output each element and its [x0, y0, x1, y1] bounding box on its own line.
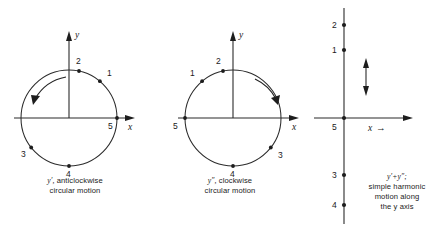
point-marker-5 — [183, 116, 187, 120]
point-marker-2 — [77, 69, 81, 73]
point-marker-5 — [115, 116, 119, 120]
caption-line-2: circular motion — [205, 186, 256, 195]
panel-shm: 2 1 5 3 4 x → y′+y″; simple harmonic mot… — [310, 0, 445, 234]
point-label-1: 1 — [190, 68, 195, 78]
caption-line-1: simple harmonic — [369, 182, 426, 191]
y-axis-arrowhead — [230, 31, 236, 41]
anticlockwise-diagram: 1 2 3 4 5 y x — [0, 0, 150, 175]
point-label-1: 1 — [332, 45, 337, 55]
physics-figure: 1 2 3 4 5 y x y′, anticlockwise circular… — [0, 0, 445, 234]
caption-anticlockwise: y′, anticlockwise circular motion — [0, 176, 150, 196]
y-axis-label: y — [74, 30, 80, 40]
point-marker-4 — [231, 164, 235, 168]
point-marker-3 — [269, 146, 273, 150]
point-marker-2 — [342, 23, 346, 27]
caption-line-2: motion along — [375, 192, 420, 201]
point-label-4: 4 — [332, 200, 337, 210]
point-label-1: 1 — [107, 68, 112, 78]
point-label-2: 2 — [216, 56, 221, 66]
panel-anticlockwise: 1 2 3 4 5 y x y′, anticlockwise circular… — [0, 0, 150, 234]
point-marker-1 — [342, 48, 346, 52]
y-axis-arrowhead — [66, 31, 72, 41]
caption-line-1: clockwise — [219, 176, 252, 185]
rotation-arrowhead — [31, 95, 40, 105]
point-label-5: 5 — [332, 122, 337, 132]
point-marker-5 — [342, 116, 346, 120]
point-marker-4 — [67, 164, 71, 168]
x-axis-label: x — [127, 122, 133, 132]
clockwise-diagram: 1 2 3 4 5 y x — [150, 0, 310, 175]
point-marker-4 — [342, 203, 346, 207]
caption-line-1: anticlockwise — [57, 176, 103, 185]
oscillation-arrowhead-down — [363, 86, 369, 96]
point-label-3: 3 — [332, 170, 337, 180]
caption-line-2: circular motion — [50, 186, 101, 195]
caption-line-3: the y axis — [380, 202, 413, 211]
x-axis-direction-arrow: → — [376, 123, 386, 133]
oscillation-arrowhead-up — [363, 58, 369, 68]
point-marker-1 — [98, 79, 102, 83]
y-axis-label: y — [238, 30, 244, 40]
point-marker-3 — [342, 173, 346, 177]
x-axis-arrowhead — [403, 115, 413, 121]
point-label-2: 2 — [76, 56, 81, 66]
x-axis-arrowhead — [289, 115, 299, 121]
point-label-3: 3 — [21, 149, 26, 159]
point-marker-1 — [200, 79, 204, 83]
point-label-2: 2 — [332, 20, 337, 30]
panel-clockwise: 1 2 3 4 5 y x y″, clockwise circular mot… — [150, 0, 310, 234]
point-label-5: 5 — [173, 121, 178, 131]
point-marker-2 — [221, 69, 225, 73]
caption-symbol: y′+y″; — [387, 172, 407, 181]
caption-symbol: y′, — [47, 176, 54, 185]
x-axis-arrowhead — [125, 115, 135, 121]
point-label-5: 5 — [108, 121, 113, 131]
caption-clockwise: y″, clockwise circular motion — [150, 176, 310, 196]
point-marker-3 — [29, 146, 33, 150]
x-axis-label: x — [367, 123, 373, 133]
caption-shm: y′+y″; simple harmonic motion along the … — [354, 172, 440, 212]
point-label-3: 3 — [278, 150, 283, 160]
caption-symbol: y″, — [208, 176, 217, 185]
x-axis-label: x — [291, 122, 297, 132]
